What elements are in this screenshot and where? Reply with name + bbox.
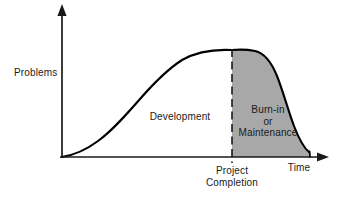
region-label-development: Development [150,111,211,123]
region-label-burn-in-line1: Burn-in [239,104,298,116]
problems-vs-time-plot [0,0,337,200]
y-axis-label: Problems [14,67,57,79]
x-axis-arrowhead-icon [317,152,329,161]
region-label-burn-in-line3: Maintenance [239,127,298,139]
region-label-burn-in-line2: or [239,116,298,128]
milestone-label-line1: Project [206,165,258,177]
region-label-burn-in-maintenance: Burn-in or Maintenance [239,104,298,139]
milestone-label-line2: Completion [206,177,258,189]
milestone-label-project-completion: Project Completion [206,165,258,188]
diagram-canvas: Problems Development Burn-in or Maintena… [0,0,337,200]
y-axis-arrowhead-icon [57,4,66,16]
x-axis-label: Time [288,162,310,174]
